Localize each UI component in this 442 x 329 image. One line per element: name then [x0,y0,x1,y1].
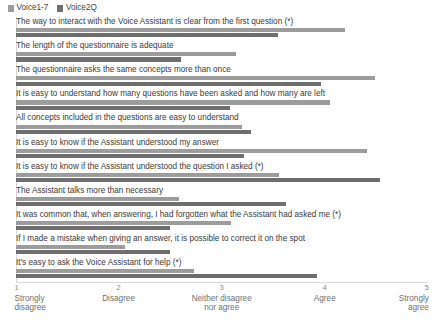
chart-item-label: The Assistant talks more than necessary [16,186,163,196]
chart-item-label: It's easy to ask the Voice Assistant for… [16,258,181,268]
chart-item-label: It is easy to know if the Assistant unde… [16,138,219,148]
bar-voice1-7[interactable] [16,100,330,104]
bar-voice1-7[interactable] [16,52,236,56]
chart-item: It is easy to know if the Assistant unde… [0,138,442,162]
bar-voice1-7[interactable] [16,125,242,129]
chart-item-bars [16,245,170,254]
chart-legend: Voice1-7 Voice2Q [8,3,97,13]
likert-bar-chart: Voice1-7 Voice2Q The way to interact wit… [0,0,442,329]
x-axis-tick-caption-line1: Neither disagree [162,294,282,304]
bar-voice1-7[interactable] [16,76,375,80]
chart-item-label: All concepts included in the questions a… [16,113,239,123]
bar-voice2q[interactable] [16,250,170,254]
legend-label-voice2q: Voice2Q [66,3,97,13]
chart-item-label: The way to interact with the Voice Assis… [16,17,293,27]
legend-entry-voice2q[interactable]: Voice2Q [57,3,96,13]
x-axis: 1Stronglydisagree2Disagree3Neither disag… [0,282,442,329]
x-axis-tick-caption-line1: Disagree [59,294,179,304]
bar-voice2q[interactable] [16,106,230,110]
chart-item-label: It is easy to know if the Assistant unde… [16,162,264,172]
chart-item-bars [16,28,345,37]
bar-voice2q[interactable] [16,154,244,158]
chart-item: The way to interact with the Voice Assis… [0,17,442,41]
chart-item: It's easy to ask the Voice Assistant for… [0,258,442,282]
bar-voice2q[interactable] [16,82,321,86]
chart-item-bars [16,173,380,182]
x-axis-tick-number: 5 [309,283,429,293]
chart-item: If I made a mistake when giving an answe… [0,234,442,258]
chart-item-bars [16,76,375,85]
bar-voice2q[interactable] [16,274,317,278]
chart-item-bars [16,100,330,109]
chart-item-label: If I made a mistake when giving an answe… [16,234,305,244]
x-axis-tick: 2Disagree [59,283,179,303]
bar-voice2q[interactable] [16,178,380,182]
bar-voice2q[interactable] [16,57,181,61]
legend-swatch-voice1-7 [8,5,14,12]
bar-voice1-7[interactable] [16,221,231,225]
legend-entry-voice1-7[interactable]: Voice1-7 [8,3,48,13]
chart-item-bars [16,52,236,61]
chart-item-bars [16,269,317,278]
bar-voice1-7[interactable] [16,149,367,153]
chart-item: It is easy to know if the Assistant unde… [0,162,442,186]
bar-voice1-7[interactable] [16,245,125,249]
chart-item-label: It was common that, when answering, I ha… [16,210,341,220]
chart-item-bars [16,221,231,230]
chart-item-bars [16,125,251,134]
chart-item: The questionnaire asks the same concepts… [0,65,442,89]
chart-item: The length of the questionnaire is adequ… [0,41,442,65]
x-axis-tick: 3Neither disagreenor agree [162,283,282,313]
x-axis-tick-caption-line1: Strongly [309,294,429,304]
bar-voice2q[interactable] [16,226,170,230]
chart-item: It is easy to understand how many questi… [0,89,442,113]
x-axis-tick-number: 3 [162,283,282,293]
chart-item: All concepts included in the questions a… [0,113,442,137]
chart-item-bars [16,197,286,206]
bar-voice1-7[interactable] [16,269,194,273]
bar-voice2q[interactable] [16,33,278,37]
bar-voice2q[interactable] [16,202,286,206]
chart-item-bars [16,149,367,158]
chart-item: It was common that, when answering, I ha… [0,210,442,234]
x-axis-tick-caption-line2: disagree [15,303,135,313]
chart-item-label: The length of the questionnaire is adequ… [16,41,174,51]
bar-voice1-7[interactable] [16,28,345,32]
x-axis-tick-number: 2 [59,283,179,293]
chart-item: The Assistant talks more than necessary [0,186,442,210]
x-axis-tick: 5Stronglyagree [309,283,429,313]
legend-swatch-voice2q [57,5,63,12]
bar-voice1-7[interactable] [16,173,279,177]
plot-area: The way to interact with the Voice Assis… [0,17,442,282]
chart-item-label: The questionnaire asks the same concepts… [16,65,231,75]
x-axis-tick-caption-line2: agree [309,303,429,313]
legend-label-voice1-7: Voice1-7 [17,3,49,13]
bar-voice1-7[interactable] [16,197,179,201]
bar-voice2q[interactable] [16,130,251,134]
chart-item-label: It is easy to understand how many questi… [16,89,325,99]
x-axis-tick-caption-line2: nor agree [162,303,282,313]
